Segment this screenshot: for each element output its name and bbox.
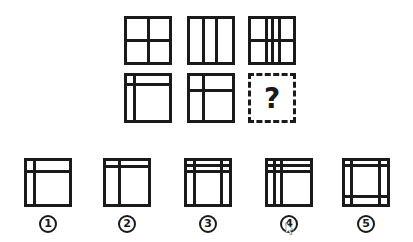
vertical-line [215,19,218,62]
puzzle-figure-r1c1 [124,16,172,65]
option-3-label[interactable]: 3 [199,215,217,233]
vertical-line [202,76,205,120]
puzzle-figure-r2c1 [124,73,172,123]
option-5-figure[interactable] [342,158,390,207]
missing-figure-placeholder: ? [248,73,296,123]
horizontal-line [106,165,148,168]
horizontal-line [187,170,229,173]
horizontal-line [268,170,310,173]
horizontal-line [268,164,310,167]
vertical-line [273,161,276,204]
option-2-label[interactable]: 2 [118,215,136,233]
vertical-line [220,161,223,204]
horizontal-line [345,164,387,167]
puzzle-figure-r2c2 [187,73,235,123]
vertical-line [202,19,205,62]
horizontal-line [251,39,293,42]
puzzle-figure-r1c3 [248,16,296,65]
vertical-line [193,161,196,204]
question-mark: ? [251,82,293,115]
mouse-cursor-icon [285,222,295,236]
option-3-figure[interactable] [184,158,232,207]
vertical-line [33,161,36,204]
horizontal-line [127,83,169,86]
puzzle-figure-r1c2 [187,16,235,65]
option-5-label[interactable]: 5 [357,215,375,233]
option-2-figure[interactable] [103,158,151,207]
horizontal-line [190,89,232,92]
option-1-figure[interactable] [24,158,72,207]
vertical-line [280,161,283,204]
horizontal-line [127,39,169,42]
horizontal-line [27,170,69,173]
option-1-label[interactable]: 1 [39,215,57,233]
horizontal-line [345,195,387,198]
horizontal-line [187,164,229,167]
option-4-figure[interactable] [265,158,313,207]
